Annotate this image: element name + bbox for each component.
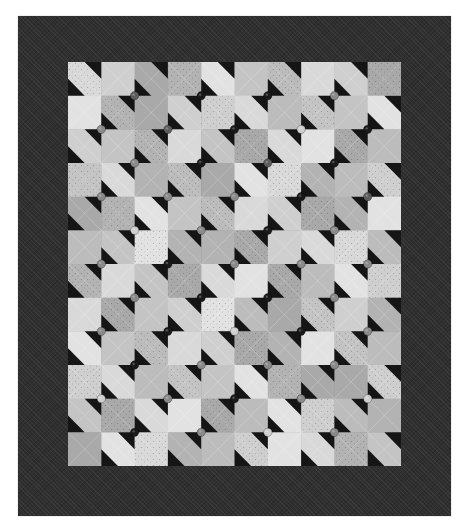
button-gray — [197, 361, 205, 369]
button-dark — [264, 91, 272, 99]
button-gray — [130, 159, 138, 167]
button-gray — [330, 293, 338, 301]
button-dark — [364, 125, 372, 133]
button-gray — [197, 428, 205, 436]
button-gray — [264, 361, 272, 369]
button-gray — [364, 327, 372, 335]
button-dark — [297, 327, 305, 335]
button-gray — [297, 260, 305, 268]
button-gray — [97, 125, 105, 133]
button-medium — [364, 192, 372, 200]
button-dark — [130, 361, 138, 369]
button-gray — [330, 226, 338, 234]
button-medium — [164, 125, 172, 133]
button-gray — [130, 293, 138, 301]
button-light — [230, 327, 238, 335]
quilt-pieced-field — [68, 62, 401, 466]
button-medium — [130, 91, 138, 99]
button-gray — [97, 327, 105, 335]
button-gray — [230, 260, 238, 268]
button-dark — [164, 327, 172, 335]
button-dark — [230, 394, 238, 402]
quilt — [18, 16, 451, 516]
button-gray — [330, 91, 338, 99]
button-gray — [97, 192, 105, 200]
button-light — [264, 428, 272, 436]
button-light — [130, 226, 138, 234]
button-dark — [197, 91, 205, 99]
button-gray — [197, 226, 205, 234]
button-dark — [230, 125, 238, 133]
button-dark — [264, 293, 272, 301]
button-gray — [364, 260, 372, 268]
button-dark — [197, 159, 205, 167]
button-medium — [264, 159, 272, 167]
button-light — [297, 125, 305, 133]
button-gray — [330, 361, 338, 369]
button-light — [364, 394, 372, 402]
button-gray — [330, 428, 338, 436]
button-dark — [264, 226, 272, 234]
button-light — [97, 394, 105, 402]
button-gray — [164, 394, 172, 402]
button-gray — [164, 192, 172, 200]
button-dark — [330, 159, 338, 167]
button-dark — [130, 428, 138, 436]
button-dark — [197, 293, 205, 301]
button-gray — [97, 260, 105, 268]
button-dark — [164, 260, 172, 268]
patchwork-pattern — [68, 62, 401, 466]
button-gray — [230, 192, 238, 200]
button-gray — [297, 394, 305, 402]
button-dark — [297, 192, 305, 200]
